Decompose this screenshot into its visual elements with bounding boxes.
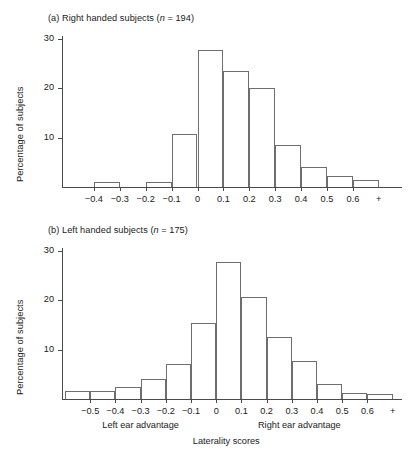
histogram-bar xyxy=(94,182,120,187)
x-tick xyxy=(216,399,217,403)
x-tick xyxy=(146,187,147,191)
histogram-bar xyxy=(172,134,198,187)
panel-b-title-prefix: (b) Left handed subjects ( xyxy=(48,225,154,235)
histogram-bar xyxy=(267,337,292,399)
panel-a-title-prefix: (a) Right handed subjects ( xyxy=(48,13,160,23)
x-tick-label: −0.1 xyxy=(163,193,181,205)
y-tick-30: 30 xyxy=(58,251,62,252)
y-tick-label-30: 30 xyxy=(44,32,54,44)
figure-laterality-histograms: (a) Right handed subjects (n = 194) Perc… xyxy=(0,0,410,459)
histogram-bar xyxy=(353,180,379,187)
x-tick xyxy=(267,399,268,403)
panel-right-handed: (a) Right handed subjects (n = 194) Perc… xyxy=(0,0,410,215)
x-tick xyxy=(342,399,343,403)
x-tick-label: −0.2 xyxy=(137,193,155,205)
x-tick-label: −0.1 xyxy=(182,405,200,417)
histogram-bar xyxy=(65,391,90,399)
histogram-bar xyxy=(90,391,115,399)
x-tick xyxy=(275,187,276,191)
x-tick-label: 0.4 xyxy=(311,405,324,417)
x-tick xyxy=(241,399,242,403)
histogram-bar xyxy=(198,50,224,187)
panel-a-x-axis-line xyxy=(62,187,402,188)
panel-a-title-suffix: = 194) xyxy=(165,13,194,23)
x-tick-label: −0.4 xyxy=(85,193,103,205)
panel-left-handed: (b) Left handed subjects (n = 175) Perce… xyxy=(0,215,410,459)
histogram-bar xyxy=(216,262,241,399)
x-tick xyxy=(353,187,354,191)
panel-b-plot-area: 102030−0.5−0.4−0.3−0.2−0.100.10.20.30.40… xyxy=(62,248,392,400)
histogram-bar xyxy=(275,145,301,187)
x-tick-label: −0.3 xyxy=(132,405,150,417)
x-tick-label: 0.1 xyxy=(235,405,248,417)
histogram-bar xyxy=(191,323,216,399)
x-tick-label: 0 xyxy=(214,405,219,417)
panel-b-x-axis-label: Laterality scores xyxy=(193,436,260,446)
right-ear-advantage-caption: Right ear advantage xyxy=(258,420,341,430)
left-ear-advantage-caption: Left ear advantage xyxy=(102,420,179,430)
x-tick-label: 0.4 xyxy=(295,193,308,205)
y-tick-label-20: 20 xyxy=(44,81,54,93)
x-tick-label: + xyxy=(376,193,381,205)
x-tick xyxy=(141,399,142,403)
x-tick-label: 0.6 xyxy=(361,405,374,417)
x-tick xyxy=(115,399,116,403)
x-tick xyxy=(94,187,95,191)
histogram-bar xyxy=(367,394,392,399)
panel-a-y-axis-line xyxy=(62,36,63,188)
histogram-bar xyxy=(342,393,367,399)
x-tick-label: + xyxy=(390,405,395,417)
x-tick-label: −0.4 xyxy=(106,405,124,417)
x-tick-label: −0.2 xyxy=(157,405,175,417)
x-tick-label: 0.1 xyxy=(217,193,230,205)
x-tick xyxy=(166,399,167,403)
panel-b-y-axis-label: Percentage of subjects xyxy=(14,300,25,395)
histogram-bar xyxy=(317,384,342,399)
y-tick-label-20: 20 xyxy=(44,293,54,305)
panel-a-plot-area: 102030−0.4−0.3−0.2−0.100.10.20.30.40.50.… xyxy=(62,36,392,188)
histogram-bar xyxy=(292,361,317,399)
panel-a-title: (a) Right handed subjects (n = 194) xyxy=(48,13,194,23)
y-tick-30: 30 xyxy=(58,39,62,40)
panel-a-y-axis-label: Percentage of subjects xyxy=(14,87,25,182)
histogram-bar xyxy=(301,167,327,187)
y-tick-20: 20 xyxy=(58,88,62,89)
x-tick xyxy=(223,187,224,191)
histogram-bar xyxy=(146,182,172,187)
histogram-bar xyxy=(141,379,166,399)
x-tick xyxy=(327,187,328,191)
y-tick-label-30: 30 xyxy=(44,244,54,256)
y-tick-20: 20 xyxy=(58,300,62,301)
x-tick xyxy=(172,187,173,191)
panel-b-y-axis-line xyxy=(62,248,63,400)
x-tick-label: 0.2 xyxy=(243,193,256,205)
x-tick-label: 0 xyxy=(195,193,200,205)
x-tick xyxy=(120,187,121,191)
x-tick-label: −0.5 xyxy=(81,405,99,417)
x-tick xyxy=(249,187,250,191)
x-tick xyxy=(292,399,293,403)
histogram-bar xyxy=(327,176,353,187)
y-tick-10: 10 xyxy=(58,350,62,351)
x-tick xyxy=(367,399,368,403)
x-tick-label: 0.3 xyxy=(285,405,298,417)
histogram-bar xyxy=(115,387,140,399)
panel-b-x-axis-line xyxy=(62,399,402,400)
x-tick-label: 0.5 xyxy=(336,405,349,417)
x-tick xyxy=(317,399,318,403)
y-tick-label-10: 10 xyxy=(44,343,54,355)
x-tick xyxy=(191,399,192,403)
panel-b-title-suffix: = 175) xyxy=(159,225,188,235)
x-tick-label: 0.5 xyxy=(321,193,334,205)
x-tick-label: −0.3 xyxy=(111,193,129,205)
y-tick-label-10: 10 xyxy=(44,131,54,143)
x-tick xyxy=(198,187,199,191)
histogram-bar xyxy=(249,88,275,187)
histogram-bar xyxy=(223,71,249,187)
x-tick xyxy=(90,399,91,403)
x-tick-label: 0.2 xyxy=(260,405,273,417)
histogram-bar xyxy=(166,364,191,399)
x-tick-label: 0.6 xyxy=(347,193,360,205)
panel-b-title: (b) Left handed subjects (n = 175) xyxy=(48,225,188,235)
y-tick-10: 10 xyxy=(58,138,62,139)
